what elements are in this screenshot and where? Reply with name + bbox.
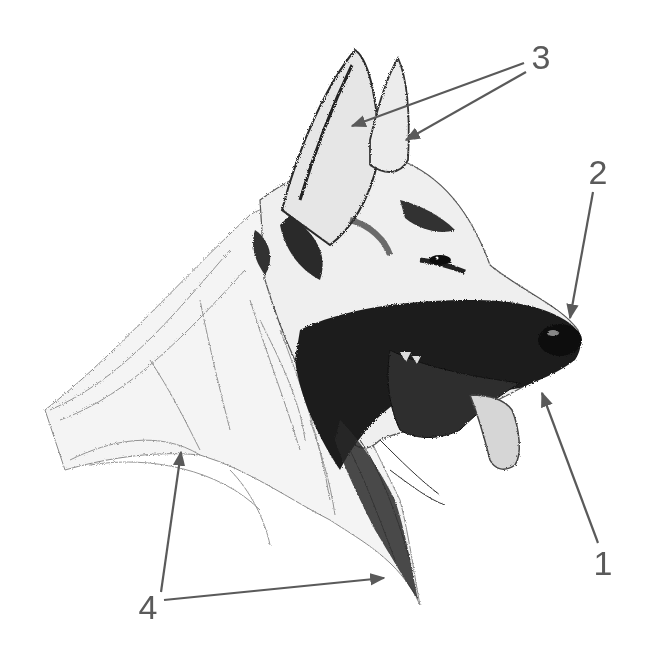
callout-arrow-2-1 [570, 192, 593, 318]
dog-sketch-illustration [0, 0, 645, 665]
callout-arrow-3-1 [352, 63, 524, 126]
callout-arrow-4-2 [164, 578, 384, 600]
callout-label-3: 3 [532, 40, 551, 74]
tongue [470, 395, 519, 469]
eye [429, 255, 451, 265]
callout-label-1: 1 [594, 546, 613, 580]
callout-arrow-4-1 [161, 452, 181, 592]
callout-label-2: 2 [589, 155, 608, 189]
callout-arrow-3-2 [406, 72, 526, 140]
ear-right [370, 58, 409, 172]
dog-head-drawing [45, 50, 582, 605]
callout-arrow-1-1 [542, 393, 598, 543]
nose [538, 324, 582, 356]
callout-label-4: 4 [139, 590, 158, 624]
